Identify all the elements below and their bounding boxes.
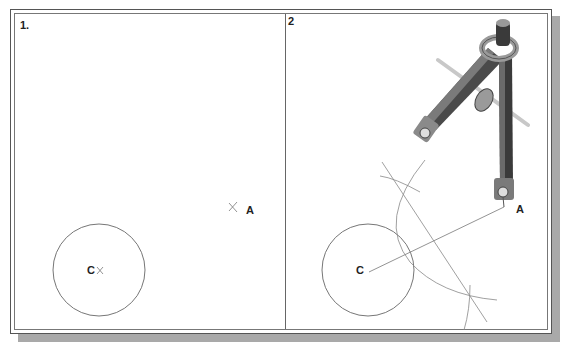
point-a-mark — [229, 202, 237, 212]
point-a-label: A — [516, 203, 524, 215]
compass-icon — [412, 19, 528, 207]
point-a-label: A — [246, 204, 254, 216]
point-c-mark — [97, 267, 103, 274]
construction-drawing: C A C A — [0, 0, 574, 355]
point-c-label: C — [87, 264, 95, 276]
panel-2-drawing: C A — [322, 160, 524, 330]
point-c-label: C — [356, 264, 364, 276]
circle-c — [53, 224, 145, 316]
bisector-line — [382, 162, 487, 322]
circle-c — [322, 224, 414, 316]
compass-arc — [396, 160, 497, 300]
line-c-to-a — [369, 207, 504, 272]
panel-1-drawing: C A — [53, 202, 254, 316]
